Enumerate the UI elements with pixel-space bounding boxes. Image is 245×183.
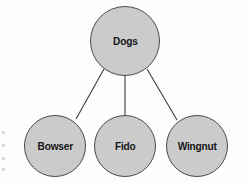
class-hierarchy-diagram: Dogs Bowser Fido Wingnut	[0, 0, 245, 183]
node-label-bowser: Bowser	[37, 140, 72, 152]
node-wingnut[interactable]: Wingnut	[166, 115, 228, 177]
node-bowser[interactable]: Bowser	[24, 115, 86, 177]
scan-artifact	[2, 144, 5, 147]
scan-artifact	[2, 168, 5, 171]
scan-artifact	[2, 131, 5, 134]
scan-artifact	[2, 157, 5, 160]
node-label-wingnut: Wingnut	[177, 140, 216, 152]
edge-dogs-bowser	[76, 69, 104, 119]
node-dogs[interactable]: Dogs	[90, 6, 160, 76]
edge-dogs-wingnut	[147, 69, 177, 120]
node-label-fido: Fido	[115, 140, 136, 152]
node-label-dogs: Dogs	[113, 35, 138, 47]
node-fido[interactable]: Fido	[94, 115, 156, 177]
